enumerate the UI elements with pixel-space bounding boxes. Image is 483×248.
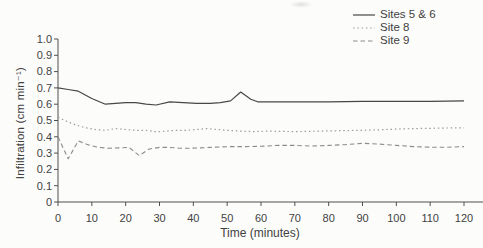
- series-line-sites-5-6: [58, 88, 464, 105]
- y-tick-label: 0.4: [37, 131, 52, 143]
- y-tick-label: 0.5: [37, 114, 52, 126]
- legend-label: Site 8: [380, 21, 409, 34]
- x-tick-label: 70: [289, 212, 301, 224]
- x-axis-title: Time (minutes): [220, 226, 300, 240]
- legend-item-site-9: Site 9: [353, 34, 436, 47]
- y-tick-label: 0: [46, 196, 52, 208]
- legend-item-site-8: Site 8: [353, 21, 436, 34]
- legend: Sites 5 & 6Site 8Site 9: [353, 8, 436, 47]
- y-tick-label: 0.2: [37, 163, 52, 175]
- x-tick-label: 20: [120, 212, 132, 224]
- y-tick-label: 0.8: [37, 65, 52, 77]
- x-tick-label: 50: [221, 212, 233, 224]
- y-tick-label: 1.0: [37, 33, 52, 45]
- y-tick-label: 0.3: [37, 147, 52, 159]
- y-axis-title: Infiltration (cm min⁻¹): [13, 67, 27, 179]
- x-tick-label: 10: [86, 212, 98, 224]
- x-tick-label: 30: [153, 212, 165, 224]
- y-tick-label: 0.1: [37, 180, 52, 192]
- series-line-site-9: [58, 137, 464, 159]
- y-tick-label: 0.7: [37, 82, 52, 94]
- x-tick-label: 0: [55, 212, 61, 224]
- x-tick-label: 110: [421, 212, 439, 224]
- x-tick-label: 80: [323, 212, 335, 224]
- x-tick-label: 90: [356, 212, 368, 224]
- legend-label: Site 9: [380, 34, 409, 47]
- y-tick-label: 0.9: [37, 49, 52, 61]
- x-tick-label: 100: [387, 212, 405, 224]
- x-tick-label: 40: [187, 212, 199, 224]
- legend-line-sample-icon: [353, 38, 375, 43]
- y-tick-label: 0.6: [37, 98, 52, 110]
- legend-label: Sites 5 & 6: [380, 8, 436, 21]
- infiltration-chart-figure: 00.10.20.30.40.50.60.70.80.91.0010203040…: [0, 0, 483, 248]
- legend-item-sites-5-6: Sites 5 & 6: [353, 8, 436, 21]
- x-tick-label: 60: [255, 212, 267, 224]
- x-tick-label: 120: [455, 212, 473, 224]
- legend-line-sample-icon: [353, 25, 375, 30]
- series-line-site-8: [58, 117, 464, 132]
- legend-line-sample-icon: [353, 12, 375, 17]
